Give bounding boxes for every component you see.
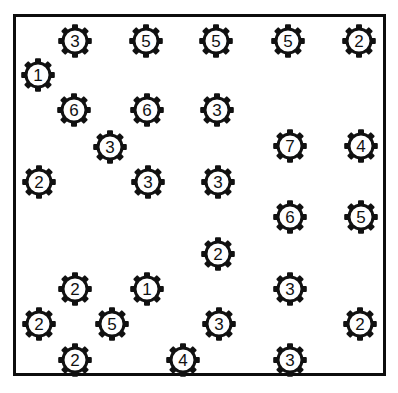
gear-label: 2 [355, 315, 364, 334]
gear-label: 3 [143, 173, 152, 192]
gear-label: 2 [34, 315, 43, 334]
gear-icon: 2 [197, 233, 239, 275]
gear-icon: 6 [269, 196, 311, 238]
gear-label: 4 [178, 351, 187, 370]
gear-icon: 3 [54, 20, 96, 62]
gear-diagram-canvas: 3555216633742336522132532243 [0, 0, 398, 393]
gear-icon: 5 [195, 20, 237, 62]
gear-icon: 6 [53, 89, 95, 131]
gear-label: 2 [70, 351, 79, 370]
gear-icon: 4 [162, 339, 204, 381]
gear-icon: 4 [340, 125, 382, 167]
gear-label: 2 [213, 245, 222, 264]
gear-label: 3 [214, 315, 223, 334]
gear-label: 6 [142, 101, 151, 120]
gear-label: 2 [70, 280, 79, 299]
gear-icon: 5 [340, 196, 382, 238]
gear-icon: 3 [198, 303, 240, 345]
gear-label: 7 [285, 137, 294, 156]
gear-icon: 2 [18, 161, 60, 203]
gear-label: 6 [285, 208, 294, 227]
gear-label: 3 [105, 138, 114, 157]
gear-icon: 3 [269, 339, 311, 381]
gear-icon: 3 [127, 161, 169, 203]
gear-icon: 2 [54, 268, 96, 310]
gear-icon: 3 [196, 89, 238, 131]
gear-label: 3 [285, 280, 294, 299]
gear-icon: 6 [126, 89, 168, 131]
gear-label: 5 [283, 32, 292, 51]
gear-icon: 2 [338, 20, 380, 62]
gear-icon: 3 [89, 126, 131, 168]
gear-label: 3 [285, 351, 294, 370]
gear-label: 5 [107, 315, 116, 334]
gear-label: 5 [141, 32, 150, 51]
gear-label: 2 [354, 32, 363, 51]
gear-icon: 7 [269, 125, 311, 167]
gear-label: 5 [356, 208, 365, 227]
gear-label: 3 [70, 32, 79, 51]
gear-icon: 2 [339, 303, 381, 345]
gear-label: 1 [142, 280, 151, 299]
gear-label: 4 [356, 137, 365, 156]
gear-label: 6 [69, 101, 78, 120]
gear-label: 5 [211, 32, 220, 51]
gear-icon: 5 [125, 20, 167, 62]
gear-icon: 2 [54, 339, 96, 381]
gear-icon: 5 [267, 20, 309, 62]
gear-icon: 5 [91, 303, 133, 345]
gear-label: 2 [34, 173, 43, 192]
gear-icon: 3 [269, 268, 311, 310]
gear-icon: 3 [197, 161, 239, 203]
gear-label: 1 [33, 66, 42, 85]
gear-label: 3 [212, 101, 221, 120]
gear-label: 3 [213, 173, 222, 192]
